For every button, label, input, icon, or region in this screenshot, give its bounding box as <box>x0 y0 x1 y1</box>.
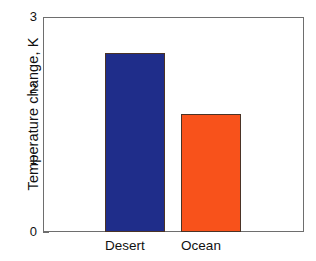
bar-chart-figure: Temperature change, K 0 1 2 3 Desert Oce… <box>0 0 316 261</box>
y-tick-label-2: 2 <box>11 81 37 97</box>
y-axis-title: Temperature change, K <box>22 0 44 230</box>
y-tick-mark-0 <box>43 232 49 233</box>
plot-area <box>43 17 304 232</box>
y-tick-label-0: 0 <box>11 224 37 240</box>
y-tick-label-3: 3 <box>11 9 37 25</box>
x-tick-label-ocean: Ocean <box>151 236 251 256</box>
y-tick-label-1: 1 <box>11 152 37 168</box>
